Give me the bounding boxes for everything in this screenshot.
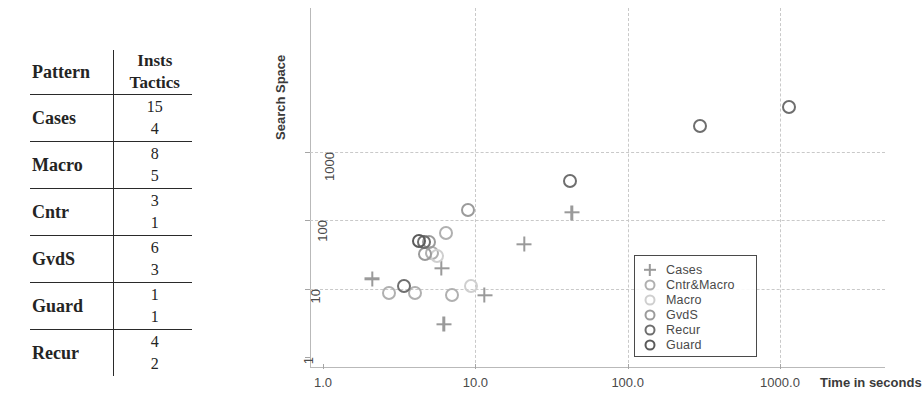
table-row: Macro85	[30, 142, 192, 189]
x-tick-label: 1.0	[314, 375, 332, 390]
legend-marker-icon	[643, 323, 657, 337]
data-point-cntr-macro	[445, 288, 459, 302]
cell-insts: 4	[118, 331, 192, 353]
x-tick	[475, 364, 476, 369]
scatter-chart: Search Space Time in seconds CasesCntr&M…	[255, 0, 893, 416]
cell-pattern: Recur	[30, 330, 113, 377]
y-tick-label: 100	[315, 220, 330, 242]
y-tick	[305, 220, 310, 221]
legend-marker-icon	[643, 338, 657, 352]
gridline-horizontal	[310, 152, 885, 153]
cell-insts: 8	[118, 143, 192, 165]
cell-insts-tactics: 154	[113, 95, 192, 142]
cell-tactics: 1	[118, 212, 192, 234]
data-point-cases	[564, 205, 579, 220]
cell-insts: 1	[118, 284, 192, 306]
x-tick	[323, 364, 324, 369]
cell-tactics: 1	[118, 306, 192, 328]
x-tick-label: 1000.0	[760, 375, 800, 390]
cell-pattern: Macro	[30, 142, 113, 189]
data-point-cases	[477, 288, 492, 303]
data-point-cntr-macro	[439, 226, 453, 240]
cell-insts: 6	[118, 237, 192, 259]
table-row: Cases154	[30, 95, 192, 142]
plot-area: CasesCntr&MacroMacroGvdSRecurGuard	[310, 8, 885, 368]
legend-item-recur[interactable]: Recur	[643, 322, 746, 337]
cell-tactics: 3	[118, 259, 192, 281]
cell-insts: 15	[118, 96, 192, 118]
data-point-recur	[782, 100, 796, 114]
data-point-cases	[517, 237, 532, 252]
data-point-recur	[563, 174, 577, 188]
legend-label: Recur	[666, 323, 700, 337]
table-row: GvdS63	[30, 236, 192, 283]
legend-item-cntr-macro[interactable]: Cntr&Macro	[643, 277, 746, 292]
table-row: Guard11	[30, 283, 192, 330]
legend-item-cases[interactable]: Cases	[643, 262, 746, 277]
gridline-horizontal	[310, 289, 885, 290]
data-point-gvds	[461, 203, 475, 217]
data-point-macro	[464, 279, 478, 293]
data-point-cases	[436, 317, 451, 332]
data-point-guard	[412, 234, 426, 248]
data-point-recur	[693, 119, 707, 133]
x-tick	[780, 364, 781, 369]
table-row: Cntr31	[30, 189, 192, 236]
legend-item-macro[interactable]: Macro	[643, 292, 746, 307]
table: PatternInstsTacticsCases154Macro85Cntr31…	[30, 50, 192, 376]
data-point-recur	[397, 279, 411, 293]
cell-insts-tactics: 85	[113, 142, 192, 189]
legend-label: Cntr&Macro	[666, 278, 735, 292]
cell-insts-tactics: 63	[113, 236, 192, 283]
cell-tactics: 4	[118, 118, 192, 140]
legend-marker-icon	[643, 293, 657, 307]
cell-pattern: Guard	[30, 283, 113, 330]
x-tick	[628, 364, 629, 369]
cell-pattern: Cntr	[30, 189, 113, 236]
gridline-vertical	[628, 8, 629, 368]
table-header-row: PatternInstsTactics	[30, 50, 192, 95]
cell-insts-tactics: 11	[113, 283, 192, 330]
legend-item-guard[interactable]: Guard	[643, 337, 746, 352]
cell-insts: 3	[118, 190, 192, 212]
gridline-vertical	[475, 8, 476, 368]
gridline-horizontal	[310, 220, 885, 221]
legend-item-gvds[interactable]: GvdS	[643, 307, 746, 322]
y-tick-label: 1	[301, 357, 316, 364]
cell-insts-tactics: 31	[113, 189, 192, 236]
data-point-gvds	[418, 247, 432, 261]
header-insts-tactics: InstsTactics	[113, 50, 192, 95]
x-axis-title: Time in seconds	[820, 375, 922, 390]
x-tick-label: 100.0	[611, 375, 644, 390]
y-tick	[305, 152, 310, 153]
table-row: Recur42	[30, 330, 192, 377]
legend-label: Macro	[666, 293, 702, 307]
chart-legend: CasesCntr&MacroMacroGvdSRecurGuard	[634, 255, 757, 357]
cell-tactics: 5	[118, 165, 192, 187]
x-tick-label: 10.0	[463, 375, 488, 390]
data-point-cntr-macro	[382, 286, 396, 300]
legend-label: GvdS	[666, 308, 698, 322]
y-tick-label: 10	[308, 289, 323, 303]
cell-tactics: 2	[118, 353, 192, 375]
y-axis-title: Search Space	[273, 55, 288, 140]
y-tick-label: 1000	[322, 152, 337, 181]
gridline-vertical	[780, 8, 781, 368]
legend-marker-icon	[643, 278, 657, 292]
x-axis-line	[310, 367, 885, 368]
header-tactics: Tactics	[118, 72, 192, 94]
cell-pattern: GvdS	[30, 236, 113, 283]
header-pattern: Pattern	[30, 50, 113, 95]
legend-marker-icon	[643, 308, 657, 322]
header-insts: Insts	[118, 50, 192, 72]
pattern-summary-table: PatternInstsTacticsCases154Macro85Cntr31…	[30, 50, 192, 376]
cell-pattern: Cases	[30, 95, 113, 142]
y-axis-line	[310, 8, 311, 368]
cell-insts-tactics: 42	[113, 330, 192, 377]
legend-label: Guard	[666, 338, 702, 352]
legend-label: Cases	[666, 263, 702, 277]
legend-marker-icon	[643, 263, 657, 277]
data-point-cases	[365, 271, 380, 286]
